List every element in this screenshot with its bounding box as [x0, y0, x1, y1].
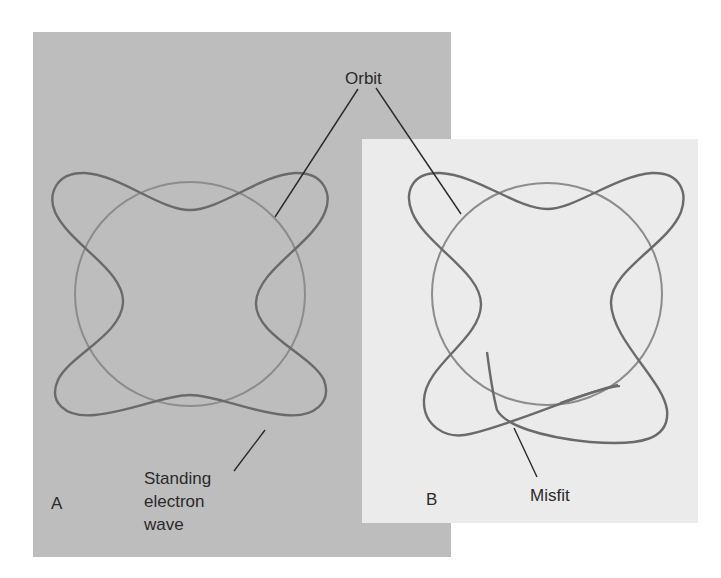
standing-wave-label-line1: Standing [144, 469, 211, 488]
standing-wave-figure: Orbit Standing electron wave Misfit A B [0, 0, 721, 578]
standing-wave-label-line3: wave [143, 515, 184, 534]
standing-wave-label-line2: electron [144, 492, 204, 511]
panel-b-background [362, 139, 698, 523]
orbit-label: Orbit [345, 69, 382, 88]
panel-a-label: A [51, 494, 63, 513]
panel-b-label: B [426, 490, 437, 509]
misfit-label: Misfit [530, 486, 570, 505]
